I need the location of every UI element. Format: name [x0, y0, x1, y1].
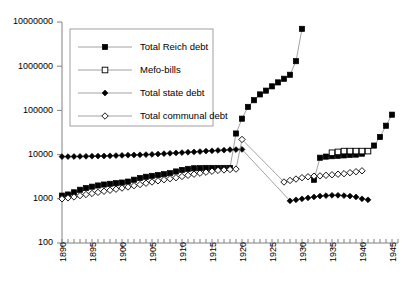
- marker-open-diamond: [131, 182, 137, 188]
- marker-filled-square: [317, 155, 322, 160]
- marker-open-diamond: [233, 166, 239, 172]
- marker-filled-diamond: [167, 150, 173, 156]
- marker-open-diamond: [161, 177, 167, 183]
- marker-filled-diamond: [191, 149, 197, 155]
- y-tick-group: 100100010000100000100000010000000: [13, 16, 62, 247]
- marker-filled-diamond: [89, 153, 95, 159]
- marker-filled-square: [323, 154, 328, 159]
- marker-open-diamond: [191, 171, 197, 177]
- marker-filled-square: [137, 175, 142, 180]
- marker-open-square: [329, 150, 335, 156]
- marker-filled-square: [239, 116, 244, 121]
- marker-filled-square: [149, 173, 154, 178]
- marker-filled-square: [101, 182, 106, 187]
- marker-filled-diamond: [215, 148, 221, 154]
- marker-filled-square: [143, 174, 148, 179]
- marker-open-diamond: [329, 172, 335, 178]
- marker-filled-diamond: [221, 147, 227, 153]
- marker-filled-diamond: [119, 152, 125, 158]
- marker-filled-square: [371, 143, 376, 148]
- marker-filled-square: [95, 183, 100, 188]
- marker-filled-diamond: [227, 147, 233, 153]
- marker-filled-diamond: [131, 152, 137, 158]
- marker-filled-diamond: [113, 153, 119, 159]
- marker-open-diamond: [143, 180, 149, 186]
- marker-filled-square: [83, 185, 88, 190]
- marker-filled-square: [131, 177, 136, 182]
- x-tick-label: 1915: [208, 242, 218, 262]
- marker-filled-square: [377, 134, 382, 139]
- marker-filled-square: [245, 104, 250, 109]
- marker-open-diamond: [155, 178, 161, 184]
- marker-open-square: [359, 148, 365, 154]
- legend-label: Total Reich debt: [140, 41, 208, 52]
- marker-filled-diamond: [185, 149, 191, 155]
- marker-open-diamond: [137, 181, 143, 187]
- legend-label: Mefo-bills: [140, 64, 181, 75]
- marker-filled-diamond: [365, 197, 371, 203]
- marker-open-square: [341, 148, 347, 154]
- marker-open-diamond: [167, 175, 173, 181]
- marker-filled-diamond: [347, 193, 353, 199]
- marker-open-diamond: [185, 172, 191, 178]
- x-tick-label: 1920: [238, 242, 248, 262]
- marker-filled-diamond: [203, 148, 209, 154]
- chart-figure: 100100010000100000100000010000000 189018…: [0, 0, 414, 287]
- marker-open-diamond: [287, 177, 293, 183]
- marker-filled-square: [179, 167, 184, 172]
- marker-filled-square: [293, 59, 298, 64]
- marker-filled-diamond: [155, 151, 161, 157]
- marker-open-diamond: [107, 187, 113, 193]
- marker-filled-diamond: [179, 150, 185, 156]
- marker-filled-square: [287, 72, 292, 77]
- marker-open-diamond: [77, 192, 83, 198]
- x-tick-label: 1890: [58, 242, 68, 262]
- log-line-chart: 100100010000100000100000010000000 189018…: [0, 0, 414, 287]
- x-tick-label: 1910: [178, 242, 188, 262]
- x-tick-label: 1935: [328, 242, 338, 262]
- marker-filled-diamond: [335, 192, 341, 198]
- marker-open-square: [335, 149, 341, 155]
- marker-filled-square: [251, 98, 256, 103]
- marker-open-square: [347, 148, 353, 154]
- marker-open-square: [102, 67, 108, 73]
- x-axis-group: 1890189519001905191019151920192519301935…: [58, 239, 399, 262]
- marker-open-diamond: [149, 179, 155, 185]
- marker-filled-diamond: [137, 152, 143, 158]
- marker-filled-square: [233, 131, 238, 136]
- marker-open-diamond: [293, 176, 299, 182]
- marker-filled-diamond: [143, 152, 149, 158]
- marker-open-diamond: [119, 185, 125, 191]
- marker-open-diamond: [305, 174, 311, 180]
- marker-filled-diamond: [353, 194, 359, 200]
- marker-filled-square: [383, 123, 388, 128]
- marker-filled-square: [102, 44, 107, 49]
- marker-filled-square: [299, 26, 304, 31]
- x-minor-tick-group: [62, 239, 398, 243]
- marker-filled-square: [89, 184, 94, 189]
- legend-label: Total communal debt: [140, 110, 228, 121]
- marker-filled-diamond: [161, 151, 167, 157]
- marker-filled-diamond: [311, 194, 317, 200]
- y-tick-label: 1000: [33, 193, 53, 203]
- marker-filled-square: [269, 84, 274, 89]
- marker-filled-diamond: [299, 196, 305, 202]
- marker-filled-diamond: [209, 148, 215, 154]
- marker-filled-diamond: [317, 193, 323, 199]
- marker-open-diamond: [317, 173, 323, 179]
- marker-filled-square: [185, 166, 190, 171]
- x-tick-label: 1895: [88, 242, 98, 262]
- series-line: [314, 115, 392, 180]
- marker-filled-square: [281, 76, 286, 81]
- marker-open-diamond: [341, 170, 347, 176]
- marker-open-diamond: [173, 175, 179, 181]
- y-tick-label: 10000: [28, 149, 53, 159]
- marker-filled-diamond: [149, 152, 155, 158]
- marker-filled-square: [257, 92, 262, 97]
- marker-open-diamond: [113, 186, 119, 192]
- marker-filled-diamond: [101, 153, 107, 159]
- marker-filled-square: [191, 166, 196, 171]
- marker-filled-diamond: [65, 154, 71, 160]
- x-tick-label: 1940: [358, 242, 368, 262]
- marker-filled-diamond: [77, 154, 83, 160]
